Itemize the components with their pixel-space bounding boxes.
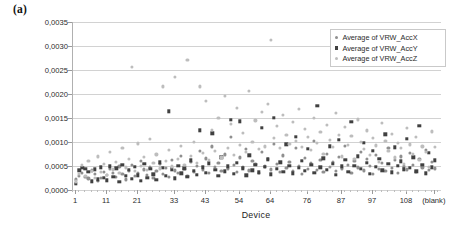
data-point-accx — [238, 156, 241, 159]
data-point-accy — [186, 175, 189, 178]
x-axis-minor-tick — [406, 190, 407, 192]
data-point-accy — [198, 129, 201, 132]
data-point-accz — [374, 144, 377, 147]
data-point-accz — [127, 158, 130, 161]
data-point-accy — [368, 172, 371, 175]
data-point-accy — [158, 160, 161, 163]
data-point-accz — [173, 76, 176, 79]
x-axis-minor-tick — [239, 190, 240, 192]
data-point-accz — [177, 157, 180, 160]
x-axis-minor-tick — [381, 190, 382, 192]
y-axis-tick-label: 0,0005 — [45, 162, 68, 171]
legend-marker-icon — [335, 36, 338, 39]
y-axis-tick-label: 0,0020 — [45, 90, 68, 99]
x-axis-minor-tick — [270, 190, 271, 192]
legend-item-accz[interactable]: Average of VRW_AccZ — [335, 54, 442, 64]
data-point-accz — [248, 90, 251, 93]
data-point-accz — [254, 119, 257, 122]
data-point-accy — [201, 166, 204, 169]
data-point-accz — [362, 147, 365, 150]
legend-label: Average of VRW_AccY — [342, 44, 417, 53]
data-point-accz — [365, 129, 368, 132]
data-point-accy — [430, 166, 433, 169]
x-axis-minor-tick — [394, 190, 395, 192]
x-axis-minor-tick — [326, 190, 327, 192]
data-point-accz — [186, 58, 189, 61]
x-axis-tick-mark — [174, 190, 175, 194]
data-point-accx — [433, 167, 436, 170]
data-point-accz — [217, 116, 220, 119]
data-point-accy — [96, 178, 99, 181]
x-axis-minor-tick — [301, 190, 302, 192]
data-point-accx — [300, 172, 303, 175]
data-point-accy — [356, 155, 359, 158]
data-point-accy — [343, 158, 346, 161]
x-axis-tick-label: 43 — [201, 196, 209, 205]
data-point-accy — [173, 177, 176, 180]
x-axis-minor-tick — [103, 190, 104, 192]
data-point-accx — [167, 175, 170, 178]
x-axis-minor-tick — [251, 190, 252, 192]
data-point-accy — [133, 165, 136, 168]
data-point-accz — [139, 164, 142, 167]
x-axis-minor-tick — [159, 190, 160, 192]
x-axis-tick-label: (blank) — [422, 196, 445, 205]
legend-item-accx[interactable]: Average of VRW_AccX — [335, 33, 442, 43]
data-point-accy — [288, 164, 291, 167]
data-point-accx — [272, 142, 275, 145]
x-axis-minor-tick — [208, 190, 209, 192]
data-point-accz — [109, 150, 112, 153]
y-axis-tick-label: 0,0030 — [45, 42, 68, 51]
data-point-accy — [294, 135, 297, 138]
legend-item-accy[interactable]: Average of VRW_AccY — [335, 43, 442, 53]
data-point-accz — [149, 138, 152, 141]
data-point-accx — [371, 173, 374, 176]
x-axis-minor-tick — [387, 190, 388, 192]
data-point-accx — [229, 136, 232, 139]
data-point-accz — [408, 143, 411, 146]
data-point-accz — [381, 121, 384, 124]
data-point-accz — [418, 158, 421, 161]
data-point-accy — [381, 169, 384, 172]
data-point-accy — [105, 179, 108, 182]
data-point-accy — [217, 174, 220, 177]
data-point-accx — [421, 166, 424, 169]
data-point-accx — [325, 152, 328, 155]
data-point-accz — [223, 94, 226, 97]
data-point-accz — [415, 135, 418, 138]
data-point-accy — [257, 171, 260, 174]
data-point-accx — [211, 145, 214, 148]
data-point-accy — [390, 171, 393, 174]
data-point-accz — [297, 107, 300, 110]
data-point-accz — [310, 149, 313, 152]
data-point-accz — [204, 99, 207, 102]
data-point-accz — [331, 146, 334, 149]
data-point-accx — [306, 167, 309, 170]
data-point-accy — [411, 156, 414, 159]
data-point-accy — [297, 166, 300, 169]
data-point-accy — [115, 167, 118, 170]
x-axis-minor-tick — [313, 190, 314, 192]
data-point-accx — [381, 161, 384, 164]
data-point-accx — [399, 155, 402, 158]
data-point-accy — [241, 167, 244, 170]
data-point-accz — [285, 134, 288, 137]
data-point-accy — [269, 172, 272, 175]
x-axis-tick-mark — [205, 190, 206, 194]
data-point-accz — [368, 153, 371, 156]
data-point-accy — [124, 174, 127, 177]
data-point-accz — [396, 141, 399, 144]
data-point-accy — [142, 162, 145, 165]
data-point-accz — [115, 160, 118, 163]
legend-marker-icon — [335, 46, 338, 49]
data-point-accy — [396, 164, 399, 167]
data-point-accy — [393, 146, 396, 149]
data-point-accy — [93, 168, 96, 171]
data-point-accz — [384, 139, 387, 142]
data-point-accz — [180, 144, 183, 147]
data-point-accz — [399, 147, 402, 150]
x-axis-minor-tick — [78, 190, 79, 192]
data-point-accy — [365, 161, 368, 164]
x-axis-minor-tick — [425, 190, 426, 192]
data-point-accx — [217, 161, 220, 164]
